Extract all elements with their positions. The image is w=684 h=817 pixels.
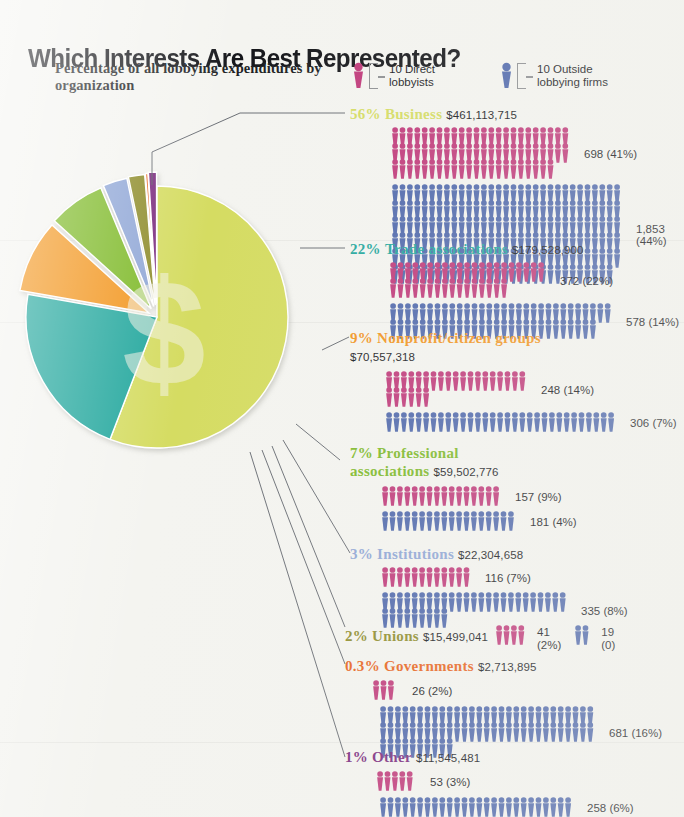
count-outside: 19 (0) <box>601 626 615 651</box>
category-business-amount: $461,113,715 <box>446 109 517 121</box>
category-institutions-name: Institutions <box>377 546 454 562</box>
count-direct: 26 (2%) <box>412 685 452 698</box>
category-institutions-heading: 3% Institutions $22,304,658 <box>350 545 628 563</box>
people-block-direct <box>390 262 548 300</box>
category-governments-amount: $2,713,895 <box>478 661 537 673</box>
category-professional-associations: 7% Professional associations $59,502,776… <box>350 444 684 533</box>
category-other-amount: $11,545,481 <box>416 752 480 764</box>
category-trade-associations: 22% Trade associations $179,528,900 372 … <box>350 240 679 341</box>
legend-bracket <box>517 63 526 89</box>
count-direct: 248 (14%) <box>541 384 594 397</box>
category-unions: 2% Unions $15,499,041 41 (2%) 19 (0) <box>345 620 615 651</box>
legend-outside-label: 10 Outside lobbying firms <box>537 63 608 88</box>
people-block-outside <box>380 797 575 817</box>
people-block-direct <box>392 127 572 181</box>
count-outside: 335 (8%) <box>581 605 628 618</box>
people-block-outside <box>386 412 618 434</box>
category-trade-pct: 22% <box>350 241 381 257</box>
person-icon <box>500 62 513 93</box>
category-unions-pct: 2% <box>345 628 368 644</box>
people-block-outside <box>382 511 518 533</box>
category-business-heading: 56% Business $461,113,715 <box>350 105 684 123</box>
people-block-direct <box>496 625 528 647</box>
legend-direct-label: 10 Direct lobbyists <box>389 63 435 88</box>
category-unions-name: Unions <box>372 628 419 644</box>
count-direct: 53 (3%) <box>430 776 470 789</box>
count-direct: 698 (41%) <box>584 148 637 161</box>
dollar-sign-watermark: $ <box>122 249 205 417</box>
count-outside: 258 (6%) <box>587 802 634 815</box>
category-business-name: Business <box>385 106 442 122</box>
category-trade-name: Trade associations <box>385 241 508 257</box>
category-governments-pct: 0.3% <box>345 658 380 674</box>
category-institutions-amount: $22,304,658 <box>458 549 523 561</box>
people-block-direct <box>386 371 529 409</box>
count-direct: 116 (7%) <box>485 572 531 585</box>
legend-outside-firms: 10 Outside lobbying firms <box>500 62 608 93</box>
category-governments-name: Governments <box>384 658 474 674</box>
count-outside: 578 (14%) <box>626 316 679 329</box>
count-direct: 41 (2%) <box>537 626 561 651</box>
people-block-direct <box>382 567 473 589</box>
category-institutions-pct: 3% <box>350 546 373 562</box>
pie-chart: $ <box>14 150 354 495</box>
category-other-pct: 1% <box>345 749 368 765</box>
people-block-outside <box>575 625 592 647</box>
category-professional-pct: 7% <box>350 445 373 461</box>
chart-subtitle: Percentage of all lobbying expenditures … <box>55 60 325 94</box>
category-nonprofit-heading: 9% Nonprofit/citizen groups $70,557,318 <box>350 329 550 365</box>
people-block-direct <box>382 486 503 508</box>
legend-direct-lobbyists: 10 Direct lobbyists <box>352 62 435 93</box>
category-other: 1% Other $11,545,481 53 (3%) 258 (6%) <box>345 748 634 817</box>
category-trade-heading: 22% Trade associations $179,528,900 <box>350 240 679 258</box>
count-outside: 306 (7%) <box>630 417 677 430</box>
category-governments: 0.3% Governments $2,713,895 26 (2%) 681 … <box>345 657 662 760</box>
legend-bracket <box>369 63 378 89</box>
count-outside: 681 (16%) <box>609 727 662 740</box>
count-direct: 372 (22%) <box>560 275 613 288</box>
category-trade-amount: $179,528,900 <box>512 244 584 256</box>
category-other-name: Other <box>372 749 412 765</box>
category-institutions: 3% Institutions $22,304,658 116 (7%) 335… <box>350 545 628 630</box>
category-unions-amount: $15,499,041 <box>423 631 488 643</box>
category-professional-heading: 7% Professional associations $59,502,776 <box>350 444 530 480</box>
category-unions-heading: 2% Unions $15,499,041 41 (2%) 19 (0) <box>345 620 615 651</box>
category-business-pct: 56% <box>350 106 381 122</box>
category-other-heading: 1% Other $11,545,481 <box>345 748 634 766</box>
category-nonprofit-amount: $70,557,318 <box>350 351 415 363</box>
category-nonprofit-pct: 9% <box>350 330 373 346</box>
count-direct: 157 (9%) <box>515 491 562 504</box>
people-block-direct <box>373 680 398 702</box>
people-block-direct <box>377 771 416 793</box>
svg-text:$: $ <box>122 249 205 417</box>
category-professional-amount: $59,502,776 <box>433 466 498 478</box>
category-nonprofit-name: Nonprofit/citizen groups <box>377 330 541 346</box>
person-icon <box>352 62 365 93</box>
category-governments-heading: 0.3% Governments $2,713,895 <box>345 657 662 675</box>
count-outside: 181 (4%) <box>530 516 577 529</box>
category-nonprofit-groups: 9% Nonprofit/citizen groups $70,557,318 … <box>350 329 684 434</box>
